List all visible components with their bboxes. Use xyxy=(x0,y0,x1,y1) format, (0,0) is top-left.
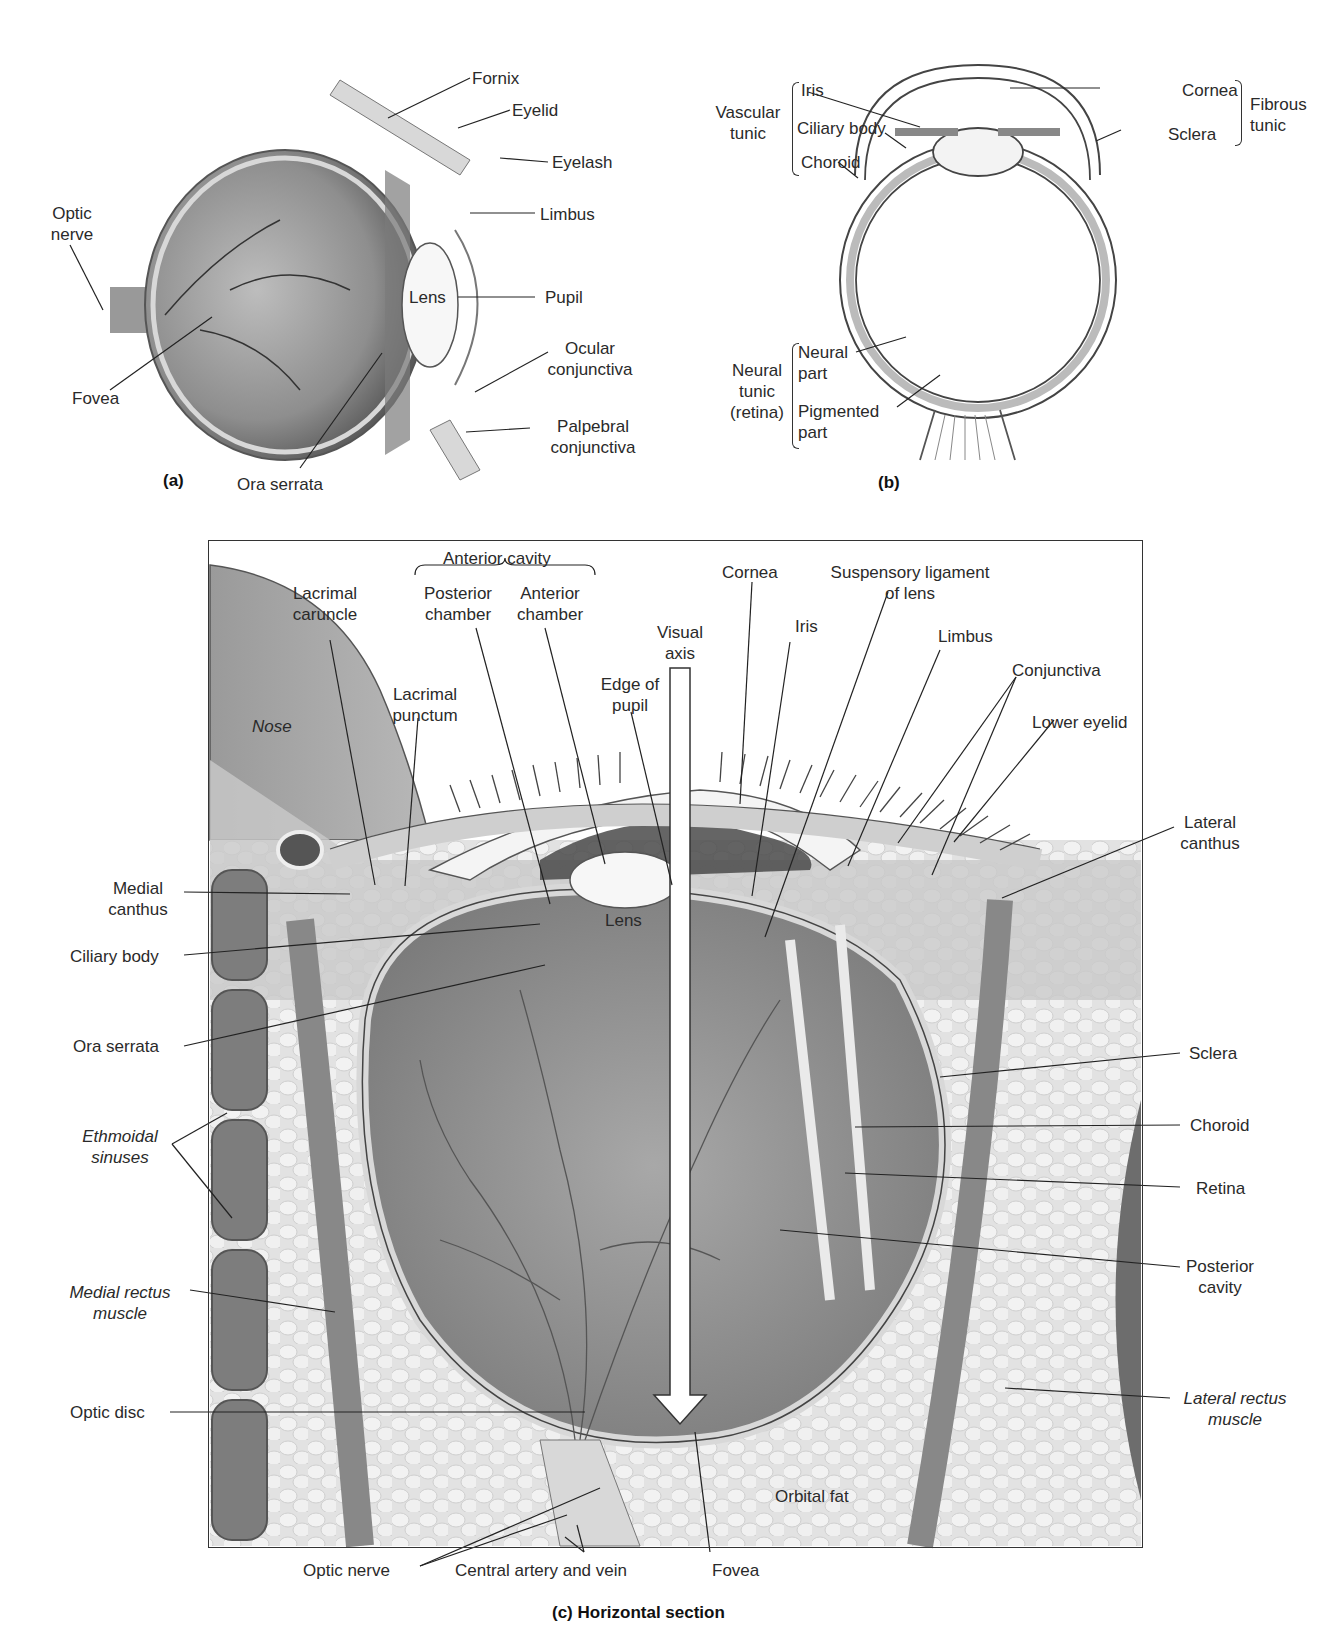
label-ciliary-body: Ciliary body xyxy=(797,118,886,139)
label-pigmented-part: Pigmented part xyxy=(798,401,879,443)
label-central-artery-vein: Central artery and vein xyxy=(455,1560,627,1581)
label-medial-canthus: Medial canthus xyxy=(98,878,178,920)
panel-a-eyeball-illustration xyxy=(110,80,480,480)
label-lower-eyelid: Lower eyelid xyxy=(1032,712,1127,733)
label-conjunctiva: Conjunctiva xyxy=(1012,660,1101,681)
label-retina: Retina xyxy=(1196,1178,1245,1199)
label-optic-nerve-c: Optic nerve xyxy=(303,1560,390,1581)
label-ciliary-body-c: Ciliary body xyxy=(70,946,159,967)
label-choroid-c: Choroid xyxy=(1190,1115,1250,1136)
label-neural-tunic: Neural tunic (retina) xyxy=(722,360,792,423)
label-lateral-rectus-muscle: Lateral rectus muscle xyxy=(1170,1388,1300,1430)
label-medial-rectus-muscle: Medial rectus muscle xyxy=(55,1282,185,1324)
label-limbus: Limbus xyxy=(540,204,595,225)
label-vascular-tunic: Vascular tunic xyxy=(708,102,788,144)
label-fovea: Fovea xyxy=(72,388,119,409)
label-fornix: Fornix xyxy=(472,68,519,89)
label-cornea: Cornea xyxy=(1182,80,1238,101)
label-neural-part: Neural part xyxy=(798,342,848,384)
caption-a: (a) xyxy=(163,470,184,491)
label-ocular-conjunctiva: Ocular conjunctiva xyxy=(535,338,645,380)
label-iris: Iris xyxy=(801,80,824,101)
label-palpebral-conjunctiva: Palpebral conjunctiva xyxy=(538,416,648,458)
label-posterior-chamber: Posterior chamber xyxy=(413,583,503,625)
label-ora-serrata: Ora serrata xyxy=(237,474,323,495)
label-ethmoidal-sinuses: Ethmoidal sinuses xyxy=(65,1126,175,1168)
label-iris-c: Iris xyxy=(795,616,818,637)
label-orbital-fat: Orbital fat xyxy=(775,1486,849,1507)
label-ora-serrata-c: Ora serrata xyxy=(73,1036,159,1057)
label-visual-axis: Visual axis xyxy=(650,622,710,664)
label-optic-nerve: Optic nerve xyxy=(42,203,102,245)
label-edge-of-pupil: Edge of pupil xyxy=(590,674,670,716)
label-nose: Nose xyxy=(252,716,292,737)
label-eyelid: Eyelid xyxy=(512,100,558,121)
caption-b: (b) xyxy=(878,472,900,493)
label-lateral-canthus: Lateral canthus xyxy=(1170,812,1250,854)
label-optic-disc: Optic disc xyxy=(70,1402,145,1423)
label-anterior-cavity: Anterior cavity xyxy=(443,548,551,569)
label-posterior-cavity: Posterior cavity xyxy=(1180,1256,1260,1298)
panel-c-frame xyxy=(208,540,1143,1548)
label-eyelash: Eyelash xyxy=(552,152,612,173)
label-choroid: Choroid xyxy=(801,152,861,173)
label-fibrous-tunic: Fibrous tunic xyxy=(1250,94,1307,136)
label-pupil: Pupil xyxy=(545,287,583,308)
label-sclera-c: Sclera xyxy=(1189,1043,1237,1064)
label-suspensory-ligament: Suspensory ligament of lens xyxy=(810,562,1010,604)
label-fovea-c: Fovea xyxy=(712,1560,759,1581)
label-anterior-chamber: Anterior chamber xyxy=(505,583,595,625)
label-sclera: Sclera xyxy=(1168,124,1216,145)
label-lens: Lens xyxy=(409,287,446,308)
label-lens-c: Lens xyxy=(605,910,642,931)
label-limbus-c: Limbus xyxy=(938,626,993,647)
label-lacrimal-caruncle: Lacrimal caruncle xyxy=(280,583,370,625)
label-lacrimal-punctum: Lacrimal punctum xyxy=(380,684,470,726)
fibrous-tunic-brace xyxy=(1235,80,1242,146)
label-cornea-c: Cornea xyxy=(722,562,778,583)
caption-c: (c) Horizontal section xyxy=(552,1602,725,1623)
